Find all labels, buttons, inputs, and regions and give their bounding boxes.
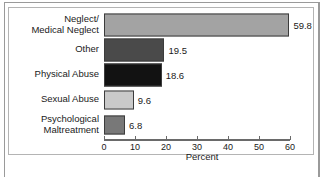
category-label: Psychological Maltreatment bbox=[9, 114, 104, 135]
bar-neglect-medical-neglect bbox=[104, 13, 289, 36]
category-label: Physical Abuse bbox=[9, 69, 104, 80]
bar-track: 18.6 bbox=[104, 62, 315, 87]
x-axis-tick bbox=[197, 136, 198, 140]
x-axis-tick bbox=[135, 136, 136, 140]
bar-value-label: 59.8 bbox=[293, 19, 312, 30]
x-axis-tick bbox=[228, 136, 229, 140]
bar-row: Psychological Maltreatment 6.8 bbox=[9, 112, 315, 137]
chart-title bbox=[5, 0, 318, 1]
figure-frame-top bbox=[4, 2, 320, 3]
bar-physical-abuse bbox=[104, 63, 162, 86]
bar-sexual-abuse bbox=[104, 90, 134, 109]
bar-row: Sexual Abuse 9.6 bbox=[9, 87, 315, 112]
bar-value-label: 18.6 bbox=[166, 69, 185, 80]
category-label: Other bbox=[9, 44, 104, 55]
x-axis-tick bbox=[259, 136, 260, 140]
x-axis-title: Percent bbox=[104, 151, 300, 162]
bar-track: 59.8 bbox=[104, 12, 315, 37]
plot-area: Neglect/ Medical Neglect 59.8 Other 19.5… bbox=[8, 7, 314, 155]
figure-frame-right bbox=[318, 2, 320, 177]
bar-row: Other 19.5 bbox=[9, 37, 315, 62]
bar-track: 19.5 bbox=[104, 37, 315, 62]
x-axis: 0102030405060 bbox=[104, 139, 300, 140]
bar-value-label: 19.5 bbox=[168, 44, 187, 55]
bar-value-label: 6.8 bbox=[129, 119, 142, 130]
figure-frame-left bbox=[4, 2, 5, 177]
bar-other bbox=[104, 38, 164, 61]
category-label: Neglect/ Medical Neglect bbox=[9, 14, 104, 35]
x-axis-tick bbox=[104, 136, 105, 140]
category-label: Sexual Abuse bbox=[9, 94, 104, 105]
x-axis-tick bbox=[290, 136, 291, 140]
bar-psychological-maltreatment bbox=[104, 115, 125, 134]
bar-track: 6.8 bbox=[104, 112, 315, 137]
bar-track: 9.6 bbox=[104, 87, 315, 112]
chart-figure: Neglect/ Medical Neglect 59.8 Other 19.5… bbox=[0, 0, 331, 179]
bar-rows: Neglect/ Medical Neglect 59.8 Other 19.5… bbox=[9, 12, 315, 137]
bar-row: Physical Abuse 18.6 bbox=[9, 62, 315, 87]
x-axis-tick bbox=[166, 136, 167, 140]
bar-row: Neglect/ Medical Neglect 59.8 bbox=[9, 12, 315, 37]
bar-value-label: 9.6 bbox=[138, 94, 151, 105]
